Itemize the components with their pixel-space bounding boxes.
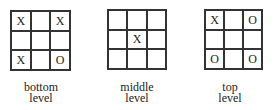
cell-top-r2c3: [243, 30, 262, 50]
cell-middle-r1c1: [108, 10, 127, 30]
cell-middle-r1c3: [147, 10, 166, 30]
cell-bottom-r3c3: O: [50, 50, 70, 70]
cell-bottom-r3c2: [31, 50, 51, 70]
label-bottom-line2: level: [11, 93, 71, 104]
board-bottom-level: X X X O: [10, 10, 71, 71]
label-bottom-level: bottom level: [11, 82, 71, 104]
cell-top-r1c2: [224, 10, 243, 30]
cell-middle-r3c1: [108, 49, 127, 69]
cell-top-r3c3: O: [243, 49, 262, 69]
cell-middle-r3c2: [127, 49, 146, 69]
cell-top-r2c1: [205, 30, 224, 50]
cell-top-r3c1: O: [205, 49, 224, 69]
cell-bottom-r2c3: [50, 31, 70, 51]
cell-bottom-r3c1: X: [11, 50, 31, 70]
cell-bottom-r2c1: [11, 31, 31, 51]
cell-middle-r2c2: X: [127, 30, 146, 50]
cell-middle-r2c3: [147, 30, 166, 50]
cell-top-r1c3: O: [243, 10, 262, 30]
cell-top-r1c1: X: [205, 10, 224, 30]
cell-middle-r2c1: [108, 30, 127, 50]
label-top-level: top level: [200, 82, 260, 104]
cell-top-r3c2: [224, 49, 243, 69]
board-top-level: X O O O: [204, 9, 263, 70]
label-top-line2: level: [200, 93, 260, 104]
cell-bottom-r2c2: [31, 31, 51, 51]
cell-bottom-r1c1: X: [11, 11, 31, 31]
label-middle-line2: level: [107, 93, 167, 104]
cell-middle-r3c3: [147, 49, 166, 69]
cell-bottom-r1c3: X: [50, 11, 70, 31]
cell-bottom-r1c2: [31, 11, 51, 31]
cell-top-r2c2: [224, 30, 243, 50]
cell-middle-r1c2: [127, 10, 146, 30]
board-middle-level: X: [107, 9, 167, 70]
label-middle-level: middle level: [107, 82, 167, 104]
